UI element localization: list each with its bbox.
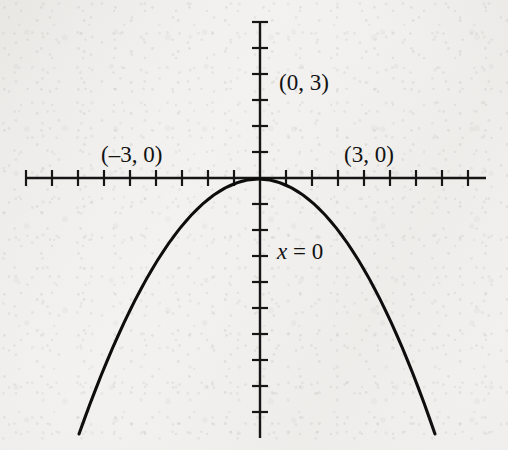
vertex-label: (0, 3)	[279, 71, 329, 94]
figure-canvas: (0, 3) (–3, 0) (3, 0) x = 0	[0, 0, 508, 450]
x-intercept-negative-label: (–3, 0)	[101, 143, 162, 166]
parabola-curve	[79, 179, 435, 434]
axis-of-symmetry-rest: = 0	[287, 239, 323, 264]
axis-of-symmetry-label: x = 0	[277, 240, 323, 263]
axis-of-symmetry-variable: x	[277, 239, 287, 264]
parabola-graph	[0, 0, 508, 450]
x-intercept-positive-label: (3, 0)	[344, 143, 394, 166]
